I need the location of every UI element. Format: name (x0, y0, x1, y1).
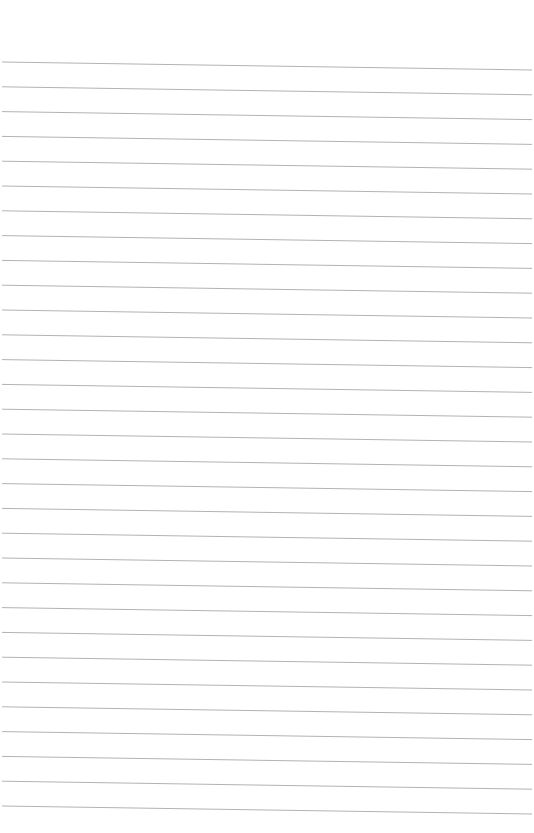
ruled-line (2, 260, 532, 268)
ruled-line (2, 360, 532, 368)
ruled-line (2, 484, 532, 492)
ruled-line (2, 533, 532, 541)
ruled-line (2, 87, 532, 95)
ruled-line (2, 558, 532, 566)
ruled-line (2, 508, 532, 516)
lined-paper-page (0, 0, 534, 833)
ruled-line (2, 211, 532, 219)
ruled-line (2, 434, 532, 442)
ruled-line (2, 62, 532, 70)
ruled-line (2, 112, 532, 120)
ruled-line (2, 583, 532, 591)
ruled-line (2, 236, 532, 244)
ruled-lines (0, 0, 534, 833)
ruled-line (2, 384, 532, 392)
ruled-line (2, 186, 532, 194)
ruled-line (2, 161, 532, 169)
ruled-line (2, 459, 532, 467)
ruled-line (2, 756, 532, 764)
ruled-line (2, 285, 532, 293)
ruled-line (2, 806, 532, 814)
ruled-line (2, 632, 532, 640)
ruled-line (2, 682, 532, 690)
ruled-line (2, 310, 532, 318)
ruled-line (2, 335, 532, 343)
ruled-line (2, 136, 532, 144)
ruled-line (2, 608, 532, 616)
ruled-line (2, 707, 532, 715)
ruled-line (2, 781, 532, 789)
ruled-line (2, 409, 532, 417)
ruled-line (2, 657, 532, 665)
ruled-line (2, 732, 532, 740)
